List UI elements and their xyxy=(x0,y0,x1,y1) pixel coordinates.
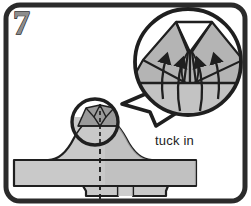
diagram-canvas xyxy=(0,0,251,206)
tuck-in-caption: tuck in xyxy=(155,133,194,148)
instruction-step-figure: 7 tuck in xyxy=(0,0,251,206)
step-number: 7 xyxy=(13,6,30,40)
